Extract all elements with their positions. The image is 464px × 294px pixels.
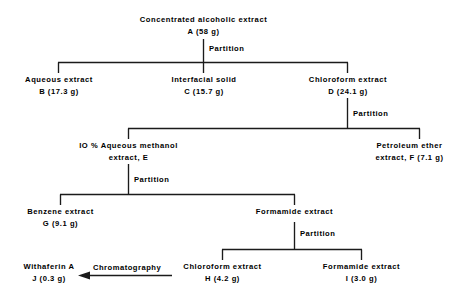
node-e-line1: IO % Aqueous methanol [79, 141, 178, 150]
node-j-line2: J (0.3 g) [0, 273, 98, 285]
node-b-line2: B (17.3 g) [0, 86, 118, 98]
node-formamide-line1: Formamide extract [256, 207, 333, 216]
edge-label-chromatography: Chromatography [93, 263, 161, 273]
node-d: Chloroform extract D (24.1 g) [289, 74, 407, 97]
node-a-line2: A (58 g) [113, 26, 294, 38]
node-c-line1: Interfacial solid [171, 75, 236, 84]
node-b: Aqueous extract B (17.3 g) [0, 74, 118, 97]
node-i-line2: I (3.0 g) [302, 273, 421, 285]
node-a-line1: Concentrated alcoholic extract [140, 15, 267, 24]
node-a: Concentrated alcoholic extract A (58 g) [113, 14, 294, 37]
edge-label-partition-1: Partition [209, 44, 244, 54]
edge-label-partition-2: Partition [353, 109, 388, 119]
node-e: IO % Aqueous methanol extract, E [55, 140, 202, 163]
node-formamide-extract: Formamide extract [235, 206, 354, 218]
node-f-line2: extract, F (7.1 g) [355, 152, 464, 164]
node-j: Withaferin A J (0.3 g) [0, 261, 98, 284]
node-g-line2: G (9.1 g) [3, 218, 118, 230]
edge-label-partition-4: Partition [300, 229, 335, 239]
node-c: Interfacial solid C (15.7 g) [145, 74, 263, 97]
node-i-line1: Formamide extract [323, 262, 400, 271]
node-h-line1: Chloroform extract [183, 262, 261, 271]
node-g-line1: Benzene extract [27, 207, 94, 216]
node-d-line2: D (24.1 g) [289, 86, 407, 98]
node-f-line1: Petroleum ether [376, 141, 442, 150]
node-e-line2: extract, E [55, 152, 202, 164]
node-g: Benzene extract G (9.1 g) [3, 206, 118, 229]
node-b-line1: Aqueous extract [25, 75, 93, 84]
flowchart-diagram: Concentrated alcoholic extract A (58 g) … [0, 0, 464, 294]
edge-label-partition-3: Partition [134, 175, 169, 185]
node-c-line2: C (15.7 g) [145, 86, 263, 98]
node-f: Petroleum ether extract, F (7.1 g) [355, 140, 464, 163]
node-i: Formamide extract I (3.0 g) [302, 261, 421, 284]
node-h: Chloroform extract H (4.2 g) [163, 261, 282, 284]
node-h-line2: H (4.2 g) [163, 273, 282, 285]
node-d-line1: Chloroform extract [309, 75, 387, 84]
node-j-line1: Withaferin A [24, 262, 75, 271]
